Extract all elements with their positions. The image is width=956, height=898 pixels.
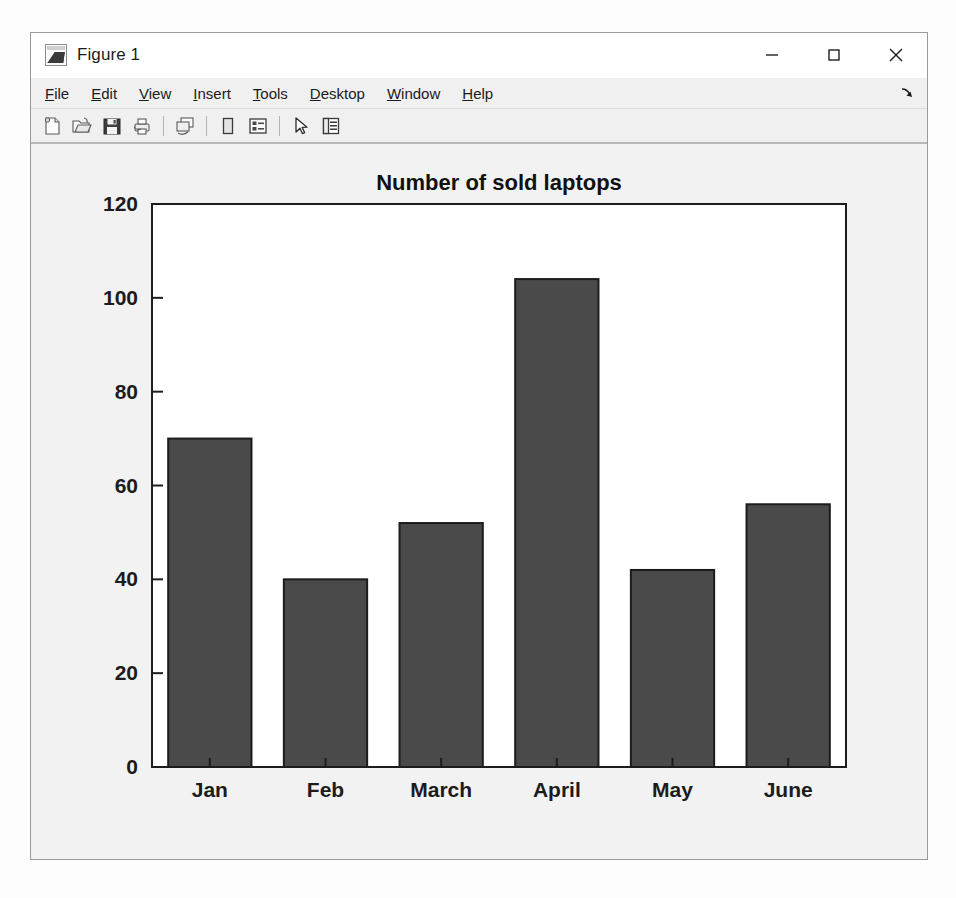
property-inspector-icon[interactable] xyxy=(316,111,346,141)
chart-title: Number of sold laptops xyxy=(376,170,622,195)
menu-file-label: ile xyxy=(54,85,69,102)
bar[interactable] xyxy=(168,439,251,767)
bar[interactable] xyxy=(747,504,830,767)
link-plot-icon[interactable] xyxy=(170,111,200,141)
window-title: Figure 1 xyxy=(77,45,140,65)
menu-bar: File Edit View Insert Tools Desktop Wind… xyxy=(31,78,927,108)
menu-view[interactable]: View xyxy=(139,85,171,102)
y-tick-label: 100 xyxy=(103,286,138,309)
menu-desktop[interactable]: Desktop xyxy=(310,85,365,102)
menu-help-mnemonic: H xyxy=(462,85,473,102)
undock-figure-arrow-icon[interactable] xyxy=(899,85,915,101)
separator xyxy=(206,116,207,136)
figure-canvas[interactable]: Number of sold laptops 020406080100120 J… xyxy=(31,144,927,859)
menu-view-label: iew xyxy=(149,85,172,102)
menu-file[interactable]: File xyxy=(45,85,69,102)
menu-window-mnemonic: W xyxy=(387,85,401,102)
menu-window-label: indow xyxy=(401,85,440,102)
toolbar xyxy=(31,108,927,144)
desktop-background: Figure 1 xyxy=(0,0,956,898)
menu-edit[interactable]: Edit xyxy=(91,85,117,102)
window-controls xyxy=(741,33,927,77)
title-bar: Figure 1 xyxy=(31,33,927,78)
maximize-button[interactable] xyxy=(803,33,865,77)
y-tick-label: 120 xyxy=(103,192,138,215)
menu-tools-label: ools xyxy=(260,85,288,102)
bar[interactable] xyxy=(284,579,367,767)
insert-colorbar-icon[interactable] xyxy=(213,111,243,141)
bar[interactable] xyxy=(515,279,598,767)
menu-file-mnemonic: F xyxy=(45,85,54,102)
menu-help-label: elp xyxy=(473,85,493,102)
matlab-figure-icon xyxy=(45,44,67,66)
y-tick-label: 20 xyxy=(115,661,138,684)
separator xyxy=(163,116,164,136)
print-figure-icon[interactable] xyxy=(127,111,157,141)
axes-frame xyxy=(152,204,846,767)
bar-chart[interactable]: Number of sold laptops 020406080100120 J… xyxy=(31,144,927,859)
x-tick-label: Jan xyxy=(192,778,228,801)
menu-edit-mnemonic: E xyxy=(91,85,101,102)
minimize-button[interactable] xyxy=(741,33,803,77)
menu-insert-label: nsert xyxy=(197,85,230,102)
menu-desktop-mnemonic: D xyxy=(310,85,321,102)
edit-plot-pointer-icon[interactable] xyxy=(286,111,316,141)
figure-window: Figure 1 xyxy=(30,32,928,860)
separator xyxy=(279,116,280,136)
bar[interactable] xyxy=(631,570,714,767)
x-tick-label: June xyxy=(764,778,813,801)
save-figure-icon[interactable] xyxy=(97,111,127,141)
menu-tools[interactable]: Tools xyxy=(253,85,288,102)
insert-legend-icon[interactable] xyxy=(243,111,273,141)
x-tick-label: April xyxy=(533,778,581,801)
menu-window[interactable]: Window xyxy=(387,85,440,102)
new-figure-icon[interactable] xyxy=(37,111,67,141)
y-tick-label: 0 xyxy=(126,755,138,778)
close-button[interactable] xyxy=(865,33,927,77)
menu-view-mnemonic: V xyxy=(139,85,149,102)
open-file-icon[interactable] xyxy=(67,111,97,141)
x-tick-label: May xyxy=(652,778,693,801)
menu-help[interactable]: Help xyxy=(462,85,493,102)
menu-edit-label: dit xyxy=(101,85,117,102)
y-tick-label: 80 xyxy=(115,380,138,403)
bar[interactable] xyxy=(400,523,483,767)
x-tick-label: Feb xyxy=(307,778,344,801)
y-tick-label: 40 xyxy=(115,567,138,590)
x-tick-label: March xyxy=(410,778,472,801)
menu-desktop-label: esktop xyxy=(321,85,365,102)
menu-insert[interactable]: Insert xyxy=(193,85,231,102)
y-tick-label: 60 xyxy=(115,474,138,497)
